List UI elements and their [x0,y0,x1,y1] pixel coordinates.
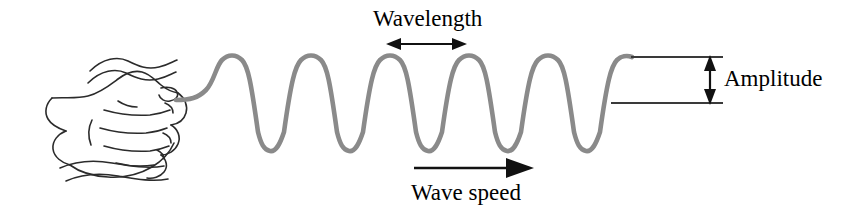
double-headed-horizontal-arrow-icon [386,38,467,50]
hand-fist-icon [46,58,187,181]
sine-wave-icon [176,56,632,152]
wave-diagram-figure: Wavelength Amplitude Wave speed [0,0,867,219]
wavelength-label: Wavelength [373,7,482,30]
double-headed-vertical-arrow-icon [704,55,716,105]
wave-speed-label: Wave speed [411,181,521,204]
right-arrow-icon [414,158,534,178]
amplitude-measure-group [611,55,723,105]
amplitude-label: Amplitude [724,67,822,90]
